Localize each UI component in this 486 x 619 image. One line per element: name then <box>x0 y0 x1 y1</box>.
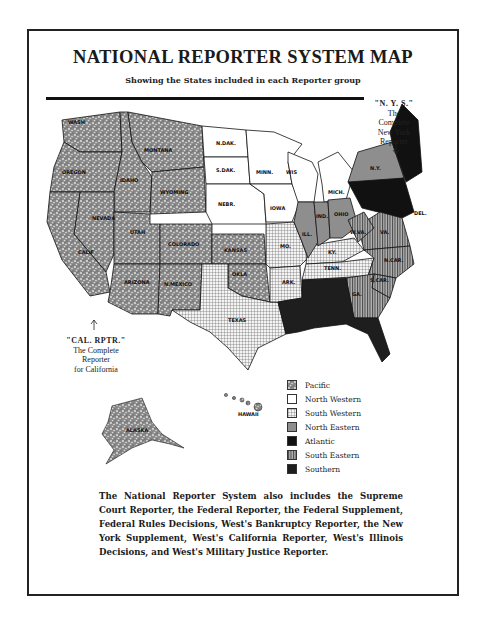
label-del: DEL. <box>414 210 427 216</box>
label-ind: IND. <box>316 213 328 219</box>
legend-item-south-eastern: South Eastern <box>287 448 361 462</box>
label-wyoming: WYOMING <box>160 189 188 195</box>
nys-callout-line: New York <box>359 128 429 138</box>
cal-callout-line: for California <box>59 365 133 375</box>
cal-callout-title: "CAL. RPTR." <box>59 336 133 346</box>
label-calif: CALIF <box>78 249 94 255</box>
legend-item-southern: Southern <box>287 462 361 476</box>
atlantic-swatch-icon <box>287 436 297 446</box>
cal-callout-line: The Complete <box>59 346 133 356</box>
label-wva: W.VA. <box>350 229 366 235</box>
label-colorado: COLORADO <box>168 241 199 247</box>
label-utah: UTAH <box>130 229 145 235</box>
label-idaho: IDAHO <box>120 177 138 183</box>
label-nebr: NEBR. <box>218 201 235 207</box>
legend-item-north-eastern: North Eastern <box>287 420 361 434</box>
north-eastern-swatch-icon <box>287 422 297 432</box>
nys-callout-line: Complete <box>359 118 429 128</box>
nys-callout-title: "N. Y. S." <box>359 99 429 109</box>
label-va: VA. <box>380 229 389 235</box>
label-texas: TEXAS <box>228 317 247 323</box>
label-ill: ILL. <box>302 231 312 237</box>
legend-item-south-western: South Western <box>287 406 361 420</box>
arrow-up-icon <box>91 320 97 330</box>
label-ncar: N.CAR. <box>384 257 404 263</box>
label-nmexico: N.MEXICO <box>164 281 192 287</box>
cal-callout: "CAL. RPTR." The Complete Reporter for C… <box>59 336 133 374</box>
label-ohio: OHIO <box>334 211 349 217</box>
legend-item-pacific: Pacific <box>287 378 361 392</box>
nys-callout: "N. Y. S." The Complete New York Reporte… <box>359 99 429 147</box>
state-arizona <box>108 264 160 314</box>
label-scar: S.CAR. <box>370 277 389 283</box>
label-okla: OKLA <box>232 271 247 277</box>
legend-item-north-western: North Western <box>287 392 361 406</box>
label-oregon: OREGON <box>62 169 86 175</box>
label-ga: GA. <box>352 291 362 297</box>
label-alaska: ALASKA <box>126 427 148 433</box>
state-hawaii <box>224 393 262 411</box>
state-utah <box>114 212 160 264</box>
label-ark: ARK. <box>282 279 296 285</box>
nys-callout-line: Reporter <box>359 137 429 147</box>
pacific-swatch-icon <box>287 380 297 390</box>
label-arizona: ARIZONA <box>124 279 150 285</box>
label-montana: MONTANA <box>144 147 172 153</box>
label-wash: WASH <box>68 119 85 125</box>
label-kansas: KANSAS <box>224 247 247 253</box>
south-western-swatch-icon <box>287 408 297 418</box>
label-tenn: TENN. <box>324 265 341 271</box>
state-nebr <box>206 184 266 224</box>
page-frame: NATIONAL REPORTER SYSTEM MAP Showing the… <box>27 29 459 596</box>
label-sdak: S.DAK. <box>216 167 235 173</box>
label-minn: MINN. <box>256 169 273 175</box>
footnote-paragraph: The National Reporter System also includ… <box>99 489 403 559</box>
label-hawaii: HAWAII <box>238 411 259 417</box>
south-eastern-swatch-icon <box>287 450 297 460</box>
label-wis: WIS <box>286 169 297 175</box>
north-western-swatch-icon <box>287 394 297 404</box>
southern-swatch-icon <box>287 464 297 474</box>
label-mo: MO. <box>280 243 291 249</box>
label-iowa: IOWA <box>270 205 285 211</box>
label-ndak: N.DAK. <box>216 140 236 146</box>
state-nmexico <box>158 264 202 316</box>
nys-callout-line: The <box>359 109 429 119</box>
cal-callout-line: Reporter <box>59 355 133 365</box>
legend-item-atlantic: Atlantic <box>287 434 361 448</box>
label-nevada: NEVADA <box>92 215 115 221</box>
label-ny: N.Y. <box>370 165 381 171</box>
label-ky: KY. <box>328 249 337 255</box>
map-legend: Pacific North Western South Western Nort… <box>287 378 361 476</box>
label-mich: MICH. <box>328 189 345 195</box>
